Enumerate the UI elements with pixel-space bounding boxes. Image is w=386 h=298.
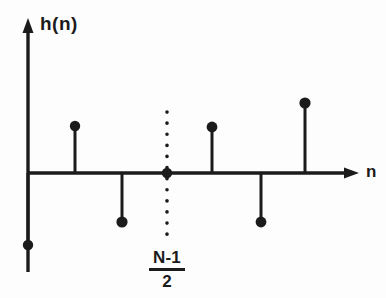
stem-sample-n5 — [256, 173, 267, 227]
sample-marker — [116, 216, 127, 227]
figure-container: h(n) n N-1 2 — [0, 0, 386, 298]
sample-marker — [70, 121, 80, 131]
stem-sample-n3 — [162, 168, 172, 178]
fraction-numerator: N-1 — [143, 248, 191, 267]
sample-marker — [207, 122, 218, 133]
fraction-bar — [149, 268, 185, 271]
sample-marker — [256, 217, 267, 228]
stem-plot-svg — [0, 0, 386, 298]
stem-sample-n6 — [299, 97, 310, 173]
stem-sample-n4 — [207, 122, 218, 173]
fraction-denominator: 2 — [143, 272, 191, 291]
x-axis-arrowhead — [344, 168, 359, 179]
sample-marker — [162, 168, 172, 178]
x-axis-label: n — [366, 162, 376, 182]
stem-sample-n1 — [70, 121, 80, 173]
sample-marker — [299, 97, 310, 108]
y-axis-label: h(n) — [40, 13, 78, 35]
stem-sample-n0 — [23, 173, 33, 250]
stem-sample-n2 — [116, 173, 127, 228]
center-point-fraction-label: N-1 2 — [143, 248, 191, 291]
y-axis-arrowhead — [23, 18, 34, 33]
sample-marker — [23, 240, 33, 250]
x-axis — [28, 168, 359, 179]
